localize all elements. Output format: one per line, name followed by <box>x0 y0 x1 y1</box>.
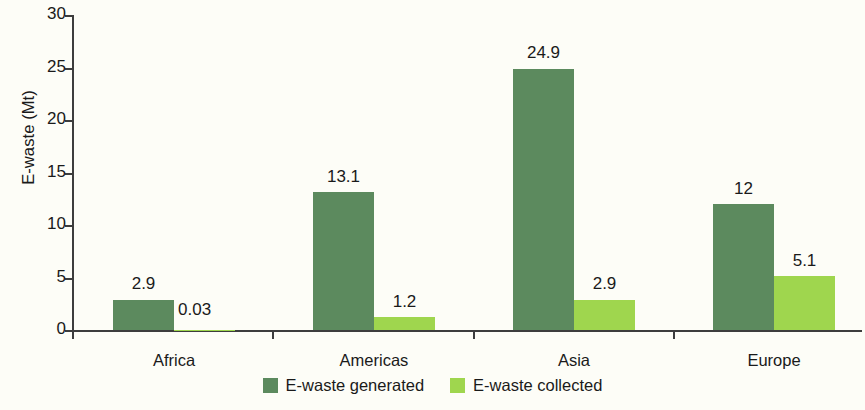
plot-area: 30 25 20 15 10 5 0 <box>72 15 862 330</box>
bar-value-collected-americas: 1.2 <box>374 292 435 312</box>
bar-collected-americas[interactable] <box>374 317 435 330</box>
x-label-europe: Europe <box>714 351 834 370</box>
legend-swatch-icon-collected <box>450 378 465 393</box>
x-tick-3 <box>673 331 675 339</box>
legend-swatch-icon-generated <box>263 378 278 393</box>
x-axis-line <box>72 330 862 332</box>
legend: E-waste generated E-waste collected <box>0 376 865 395</box>
bar-generated-americas[interactable] <box>313 192 374 330</box>
bar-value-generated-americas: 13.1 <box>313 167 374 187</box>
legend-item-generated[interactable]: E-waste generated <box>263 376 425 395</box>
bar-value-generated-asia: 24.9 <box>513 43 574 63</box>
bar-chart: E-waste (Mt) 30 25 20 15 10 5 <box>0 0 865 410</box>
x-label-americas: Americas <box>314 351 434 370</box>
y-tick-label: 5 <box>57 267 66 287</box>
y-tick-label: 25 <box>47 57 66 77</box>
y-axis-line <box>72 15 74 331</box>
bar-value-collected-europe: 5.1 <box>774 251 835 271</box>
bar-collected-asia[interactable] <box>574 300 635 331</box>
bar-generated-asia[interactable] <box>513 69 574 331</box>
y-tick-label: 20 <box>47 109 66 129</box>
y-axis-title: E-waste (Mt) <box>19 58 38 218</box>
y-tick-label: 10 <box>47 214 66 234</box>
y-tick-label: 30 <box>47 4 66 24</box>
legend-label-generated: E-waste generated <box>286 376 425 395</box>
x-label-asia: Asia <box>514 351 634 370</box>
legend-item-collected[interactable]: E-waste collected <box>450 376 602 395</box>
bar-generated-europe[interactable] <box>713 204 774 330</box>
legend-label-collected: E-waste collected <box>473 376 602 395</box>
x-label-africa: Africa <box>114 351 234 370</box>
x-tick-2 <box>473 331 475 339</box>
y-tick-label: 15 <box>47 162 66 182</box>
y-tick-label: 0 <box>57 319 66 339</box>
bar-value-collected-africa: 0.03 <box>174 300 253 320</box>
bar-value-generated-africa: 2.9 <box>113 274 174 294</box>
bar-value-generated-europe: 12 <box>713 179 774 199</box>
x-tick-start <box>72 331 74 339</box>
bar-collected-europe[interactable] <box>774 276 835 330</box>
bar-generated-africa[interactable] <box>113 300 174 331</box>
x-tick-1 <box>272 331 274 339</box>
bar-value-collected-asia: 2.9 <box>574 274 635 294</box>
